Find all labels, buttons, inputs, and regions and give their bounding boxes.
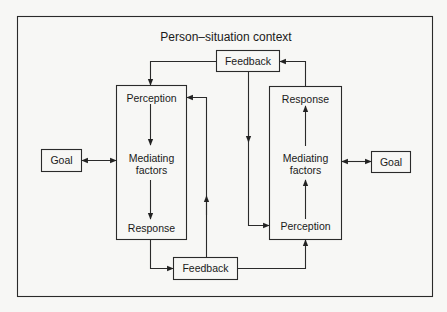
diagram-title: Person–situation context: [146, 31, 306, 43]
left-goal-label: Goal: [41, 154, 82, 166]
left-mediating-label-1: Mediating: [116, 152, 187, 164]
feedback-top-label: Feedback: [216, 55, 280, 67]
feedback-bottom-label: Feedback: [173, 262, 238, 274]
right-perception-label: Perception: [269, 220, 342, 232]
left-perception-label: Perception: [116, 92, 187, 104]
right-goal-label: Goal: [371, 156, 411, 168]
left-response-label: Response: [116, 222, 187, 234]
right-mediating-label-1: Mediating: [269, 152, 342, 164]
right-response-label: Response: [269, 93, 342, 105]
left-mediating-label-2: factors: [116, 164, 187, 176]
right-mediating-label-2: factors: [269, 164, 342, 176]
